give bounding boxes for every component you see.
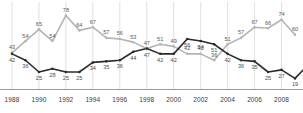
data-point-label: 25 xyxy=(63,75,69,81)
data-point-marker xyxy=(78,29,81,32)
data-point-label: 42 xyxy=(224,57,230,63)
data-point-label: 64 xyxy=(76,22,82,28)
x-tick-label: 2008 xyxy=(274,96,289,103)
data-point-label: 56 xyxy=(117,30,123,36)
data-point-marker xyxy=(199,40,202,43)
data-point-label: 35 xyxy=(251,64,257,70)
data-point-marker xyxy=(146,47,149,50)
data-point-marker xyxy=(240,59,243,62)
data-point-marker xyxy=(92,61,95,64)
data-point-marker xyxy=(213,59,216,62)
data-point-marker xyxy=(65,14,68,17)
data-point-label: 57 xyxy=(238,29,244,35)
data-point-marker xyxy=(24,40,27,43)
data-point-label: 67 xyxy=(251,19,257,25)
data-point-marker xyxy=(172,53,175,56)
data-point-label: 57 xyxy=(103,29,109,35)
data-point-marker xyxy=(51,40,54,43)
x-tick-label: 1992 xyxy=(58,96,73,103)
data-point-label: 25 xyxy=(265,75,271,81)
data-point-label: 47 xyxy=(144,52,150,58)
data-point-marker xyxy=(105,37,108,40)
data-point-label: 42 xyxy=(9,57,15,63)
x-tick-label: 1998 xyxy=(139,96,154,103)
data-point-label: 19 xyxy=(292,81,298,87)
data-point-marker xyxy=(253,60,256,63)
data-point-marker xyxy=(267,71,270,74)
data-point-marker xyxy=(132,50,135,53)
data-point-label: 36 xyxy=(117,63,123,69)
data-point-marker xyxy=(280,18,283,21)
data-point-marker xyxy=(186,53,189,56)
data-point-label: 34 xyxy=(90,65,96,71)
data-point-marker xyxy=(38,71,41,74)
data-point-marker xyxy=(24,59,27,62)
data-point-marker xyxy=(186,38,189,41)
data-point-label: 44 xyxy=(130,55,136,61)
data-point-label: 28 xyxy=(49,72,55,78)
data-point-label: 56 xyxy=(184,42,190,48)
data-point-label: 43 xyxy=(9,44,15,50)
data-point-label: 66 xyxy=(265,20,271,26)
data-point-label: 65 xyxy=(36,21,42,27)
x-tick-label: 2000 xyxy=(166,96,181,103)
data-point-label: 54 xyxy=(22,33,28,39)
x-tick-label: 1996 xyxy=(112,96,127,103)
data-point-marker xyxy=(38,28,41,31)
x-tick-label: 2004 xyxy=(220,96,235,103)
data-point-label: 51 xyxy=(157,36,163,42)
data-point-marker xyxy=(294,33,297,36)
data-point-marker xyxy=(78,71,81,74)
data-point-label: 67 xyxy=(90,19,96,25)
data-point-label: 49 xyxy=(171,38,177,44)
data-point-label: 78 xyxy=(63,7,69,13)
data-point-label: 36 xyxy=(238,63,244,69)
data-point-label: 36 xyxy=(22,63,28,69)
data-point-marker xyxy=(280,69,283,72)
data-point-label: 25 xyxy=(76,75,82,81)
data-point-marker xyxy=(294,77,297,80)
data-point-marker xyxy=(267,27,270,30)
data-point-marker xyxy=(132,41,135,44)
data-point-label: 51 xyxy=(224,36,230,42)
data-point-marker xyxy=(240,37,243,40)
data-point-label: 53 xyxy=(130,34,136,40)
data-point-marker xyxy=(65,71,68,74)
data-point-marker xyxy=(119,59,122,62)
data-point-marker xyxy=(199,53,202,56)
data-point-label: 60 xyxy=(292,26,298,32)
data-point-label: 42 xyxy=(157,57,163,63)
data-point-label: 54 xyxy=(49,33,55,39)
data-point-marker xyxy=(226,53,229,56)
data-point-marker xyxy=(253,26,256,29)
line-chart: 1988199019921994199619982000200220042006… xyxy=(0,0,303,113)
data-point-marker xyxy=(159,53,162,56)
data-point-marker xyxy=(159,43,162,46)
data-point-label: 47 xyxy=(144,40,150,46)
data-point-marker xyxy=(119,38,122,41)
data-point-marker xyxy=(172,45,175,48)
data-point-marker xyxy=(11,53,14,56)
data-point-marker xyxy=(213,43,216,46)
data-point-label: 54 xyxy=(198,44,204,50)
x-tick-label: 1988 xyxy=(5,96,20,103)
data-point-label: 27 xyxy=(278,73,284,79)
x-tick-label: 2002 xyxy=(193,96,208,103)
x-tick-label: 1994 xyxy=(85,96,100,103)
data-point-marker xyxy=(51,68,54,71)
data-point-marker xyxy=(92,26,95,29)
data-point-label: 35 xyxy=(103,64,109,70)
data-point-label: 51 xyxy=(211,47,217,53)
data-point-label: 25 xyxy=(36,75,42,81)
x-tick-label: 1990 xyxy=(32,96,47,103)
data-point-marker xyxy=(105,60,108,63)
data-point-label: 74 xyxy=(278,11,284,17)
x-tick-label: 2006 xyxy=(247,96,262,103)
data-point-label: 42 xyxy=(171,57,177,63)
data-point-marker xyxy=(226,43,229,46)
